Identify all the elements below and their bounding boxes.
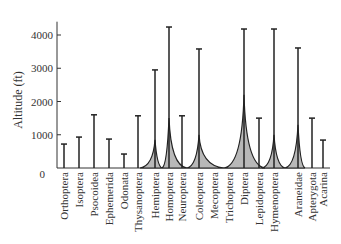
y-axis-label: Altitude (ft) xyxy=(11,71,25,129)
x-tick-label: Neuroptera xyxy=(176,172,188,222)
x-axis-labels: OrthopteraIsopteraPsocoideaEphemeridaOdo… xyxy=(58,172,329,232)
x-tick-label: Mecoptera xyxy=(208,172,220,219)
y-tick-label: 3000 xyxy=(31,62,54,74)
x-tick-label: Thysanoptera xyxy=(132,172,144,232)
altitude-bars xyxy=(61,27,326,168)
y-tick-label: 4000 xyxy=(31,29,54,41)
abundance-peak xyxy=(187,135,224,168)
x-tick-label: Orthoptera xyxy=(58,172,70,220)
y-tick-label: 1000 xyxy=(31,129,54,141)
x-tick-label: Hemiptera xyxy=(149,172,161,219)
x-tick-label: Psocoidea xyxy=(88,172,100,217)
x-tick-label: Lepidoptera xyxy=(253,172,265,225)
y-tick-label: 0 xyxy=(40,168,46,180)
altitude-chart: 01000200030004000 OrthopteraIsopteraPsoc… xyxy=(0,0,341,244)
abundance-peak xyxy=(162,118,187,168)
x-tick-label: Hymenoptera xyxy=(268,172,280,232)
abundance-peak xyxy=(285,125,305,168)
x-tick-label: Acarina xyxy=(317,172,329,207)
x-tick-label: Odonata xyxy=(118,172,130,209)
x-tick-label: Araneidae xyxy=(292,172,304,217)
x-tick-label: Trichoptera xyxy=(223,172,235,223)
x-tick-label: Coleoptera xyxy=(193,172,205,220)
x-tick-label: Diptera xyxy=(238,172,250,205)
y-tick-label: 2000 xyxy=(31,96,54,108)
x-tick-label: Isoptera xyxy=(73,172,85,208)
x-tick-label: Homoptera xyxy=(163,172,175,222)
axes: 01000200030004000 xyxy=(31,22,330,180)
x-tick-label: Ephemerida xyxy=(103,172,115,225)
abundance-shading xyxy=(140,95,305,168)
abundance-peak xyxy=(140,140,162,168)
